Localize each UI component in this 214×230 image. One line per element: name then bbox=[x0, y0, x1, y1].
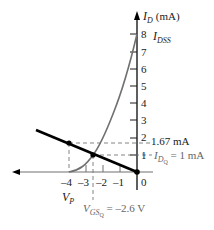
xtick-0: 0 bbox=[141, 177, 147, 188]
ytick-7: 7 bbox=[141, 47, 147, 58]
idq-value: = 1 mA bbox=[168, 149, 204, 161]
x-ticks bbox=[86, 165, 120, 172]
ytick-3: 3 bbox=[141, 115, 147, 126]
idq-label: IDQ = 1 mA bbox=[154, 150, 204, 161]
xtick-neg4: –4 bbox=[61, 177, 72, 188]
q-point bbox=[90, 152, 95, 157]
ytick-8: 8 bbox=[141, 29, 147, 40]
origin-point bbox=[134, 169, 140, 175]
id-unit: (mA) bbox=[156, 10, 180, 22]
ytick-5: 5 bbox=[141, 81, 147, 92]
vp-subscript: P bbox=[69, 197, 74, 206]
vgs-axis-arrow-icon bbox=[12, 169, 20, 175]
bias-point-vp bbox=[66, 140, 71, 145]
ytick-1: 1 bbox=[141, 150, 147, 161]
idss-label: IDSS bbox=[153, 30, 171, 42]
xtick-neg2: –2 bbox=[96, 177, 107, 188]
vgsq-symbol: V bbox=[83, 202, 90, 214]
vgsq-label: VGSQ = –2.6 V bbox=[83, 203, 145, 214]
vp-label: VP bbox=[62, 191, 74, 203]
xtick-neg1: –1 bbox=[113, 177, 124, 188]
jfet-bias-diagram: ID (mA) 8 7 6 5 4 3 2 1 IDSS 1.67 mA IDQ… bbox=[0, 0, 214, 230]
id-subscript: D bbox=[147, 16, 153, 25]
label-1-67ma: 1.67 mA bbox=[151, 136, 190, 147]
diagram-canvas bbox=[0, 0, 214, 230]
xtick-neg3: –3 bbox=[78, 177, 89, 188]
vgsq-subsubscript: Q bbox=[100, 212, 104, 218]
id-axis-arrow-icon bbox=[134, 11, 140, 20]
vgsq-value: = –2.6 V bbox=[104, 202, 145, 214]
y-ticks bbox=[130, 34, 137, 155]
ytick-4: 4 bbox=[141, 98, 147, 109]
ytick-2: 2 bbox=[141, 132, 147, 143]
ytick-6: 6 bbox=[141, 64, 147, 75]
idq-subsubscript: Q bbox=[163, 159, 167, 165]
idss-subscript: DSS bbox=[157, 36, 171, 45]
id-axis-label: ID (mA) bbox=[143, 10, 180, 22]
transfer-curve bbox=[69, 34, 137, 172]
vgsq-subscript: GS bbox=[90, 208, 100, 217]
